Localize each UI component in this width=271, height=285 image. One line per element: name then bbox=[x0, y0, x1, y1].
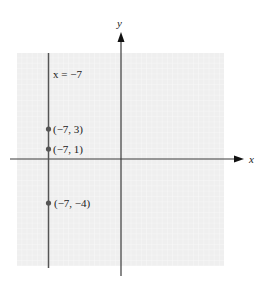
point-minus7-minus4 bbox=[46, 200, 51, 205]
x-axis-label: x bbox=[248, 153, 254, 165]
point-minus7-1 bbox=[46, 146, 51, 151]
point-label-minus7-minus4: (−7, −4) bbox=[54, 197, 91, 210]
y-axis-label: y bbox=[116, 17, 122, 29]
line-equation-label: x = −7 bbox=[53, 68, 82, 80]
point-label-minus7-3: (−7, 3) bbox=[53, 123, 83, 136]
x-axis-arrow-icon bbox=[234, 156, 244, 163]
y-axis-arrow-icon bbox=[118, 32, 125, 42]
point-minus7-3 bbox=[46, 126, 51, 131]
point-label-minus7-1: (−7, 1) bbox=[53, 143, 83, 156]
coordinate-plane: x y x = −7 (−7, 3) (−7, 1) (−7, −4) bbox=[0, 0, 271, 285]
